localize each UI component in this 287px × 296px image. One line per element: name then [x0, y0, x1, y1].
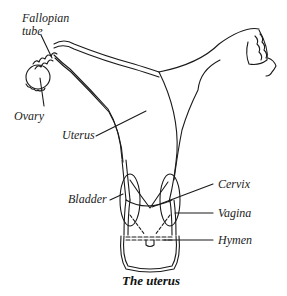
label-fallopian-tube: Fallopian tube [22, 12, 69, 38]
bladder-leader [110, 194, 123, 200]
uterus-illustration [0, 0, 287, 296]
label-hymen: Hymen [218, 234, 252, 247]
label-bladder: Bladder [68, 193, 107, 206]
ovary-leader [40, 78, 44, 106]
left-ovary-shape [26, 65, 50, 91]
label-vagina: Vagina [218, 207, 251, 220]
label-cervix: Cervix [218, 178, 250, 191]
label-uterus: Uterus [62, 129, 95, 142]
fallopian-tube-leader [41, 35, 52, 58]
label-ovary: Ovary [14, 110, 44, 123]
uterus-leader [96, 111, 146, 136]
diagram-caption: The uterus [122, 273, 180, 289]
